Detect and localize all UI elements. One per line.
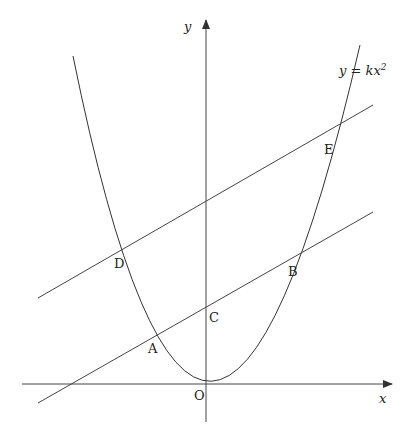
y-axis-label: y	[184, 20, 191, 33]
origin-label: O	[194, 389, 205, 402]
point-label-a: A	[148, 342, 157, 355]
parabola-curve	[73, 45, 360, 381]
diagram-canvas: y x O y = kx2 A B C D E	[0, 0, 407, 435]
curve-label-exponent: 2	[381, 62, 387, 72]
x-axis-label: x	[379, 392, 386, 405]
point-label-e: E	[324, 143, 334, 156]
curve-label: y = kx2	[339, 63, 386, 77]
curve-label-lhs: y = kx	[339, 63, 381, 78]
point-label-b: B	[288, 265, 298, 278]
point-label-d: D	[114, 257, 124, 270]
point-label-c: C	[209, 311, 219, 324]
